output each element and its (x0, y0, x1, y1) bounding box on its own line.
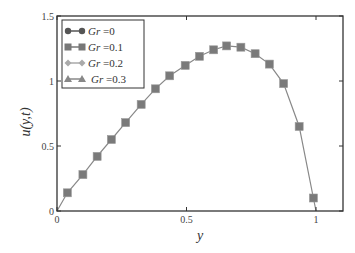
data-point-marker (181, 61, 189, 69)
data-point-marker (223, 42, 231, 50)
legend-entry-label: Gr =0.1 (88, 41, 123, 53)
data-point-marker (151, 85, 159, 93)
y-axis-label: u(y,t) (18, 107, 34, 136)
x-tick-label: 0.5 (180, 214, 193, 225)
data-point-marker (122, 119, 130, 127)
data-point-marker (166, 72, 174, 80)
data-point-marker (79, 171, 87, 179)
data-point-marker (295, 123, 303, 131)
data-point-marker (210, 46, 218, 54)
data-point-marker (93, 152, 101, 160)
x-tick-label: 0 (55, 214, 60, 225)
x-tick-label: 1 (314, 214, 319, 225)
data-point-marker (63, 189, 71, 197)
data-point-marker (265, 60, 273, 68)
y-tick-label: 0 (49, 206, 54, 217)
data-point-marker (280, 80, 288, 88)
legend-entry-label: Gr =0.3 (91, 73, 126, 85)
square-marker-icon (65, 44, 72, 51)
data-point-marker (237, 43, 245, 51)
legend-entry-label: Gr =0 (88, 25, 115, 37)
y-tick-label: 1.5 (42, 11, 55, 22)
square-marker-icon (79, 44, 86, 51)
y-tick-label: 1 (49, 76, 54, 87)
circle-marker-icon (65, 28, 71, 34)
data-point-marker (107, 136, 115, 144)
data-point-marker (137, 100, 145, 108)
data-point-marker (309, 194, 317, 202)
y-tick-label: 0.5 (42, 141, 55, 152)
line-chart: 00.5100.511.5 Gr =0Gr =0.1Gr =0.2Gr =0.3… (0, 0, 355, 253)
legend: Gr =0Gr =0.1Gr =0.2Gr =0.3 (62, 20, 144, 88)
circle-marker-icon (79, 28, 85, 34)
data-point-marker (251, 50, 259, 58)
data-point-marker (195, 52, 203, 60)
legend-entry-label: Gr =0.2 (88, 57, 123, 69)
x-axis-label: y (195, 228, 204, 243)
